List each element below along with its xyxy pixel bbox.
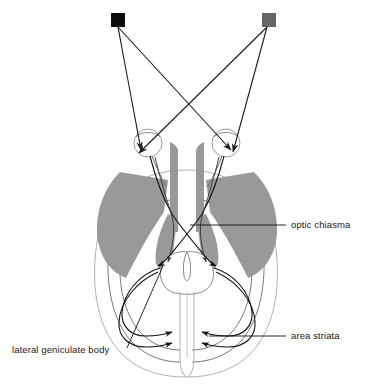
ray-right-square-to-right-eye (233, 27, 267, 152)
label-lateral-geniculate-body: lateral geniculate body (12, 344, 110, 355)
brainstem-left-edge (180, 292, 186, 377)
ray-left-square-to-right-eye (118, 27, 231, 150)
ray-right-square-to-left-eye (139, 27, 267, 153)
ray-left-square-to-left-eye (118, 27, 141, 150)
diagram-canvas: optic chiasma area striata lateral genic… (0, 0, 372, 385)
brainstem-right-edge (188, 292, 194, 377)
left-stimulus-square (111, 13, 125, 27)
stimulus-squares-group (111, 13, 276, 27)
brainstem-group (160, 252, 213, 377)
label-optic-chiasma: optic chiasma (291, 219, 351, 230)
midbrain (160, 252, 213, 295)
right-stimulus-square (262, 13, 276, 27)
visual-pathway-diagram: optic chiasma area striata lateral genic… (0, 0, 372, 385)
label-area-striata: area striata (291, 330, 340, 341)
